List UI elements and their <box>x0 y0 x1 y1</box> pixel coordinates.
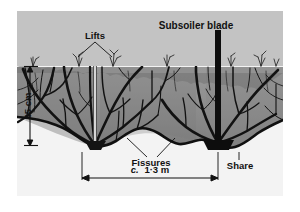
diagram-canvas: 45 cm c. 1·3 m Subsoiler blade <box>0 0 300 212</box>
subsoiler-blade-shank <box>215 30 221 144</box>
share-label: Share <box>227 160 253 171</box>
fissures-label: Fissures <box>131 157 170 168</box>
previous-pass-slot <box>94 66 97 144</box>
share-wedge <box>203 140 234 150</box>
lifts-label: Lifts <box>85 30 105 41</box>
subsoiler-blade-label: Subsoiler blade <box>159 20 234 31</box>
subsoiler-diagram-figure: 45 cm c. 1·3 m Subsoiler blade <box>0 0 300 212</box>
depth-dimension-label: 45 cm <box>22 93 33 120</box>
